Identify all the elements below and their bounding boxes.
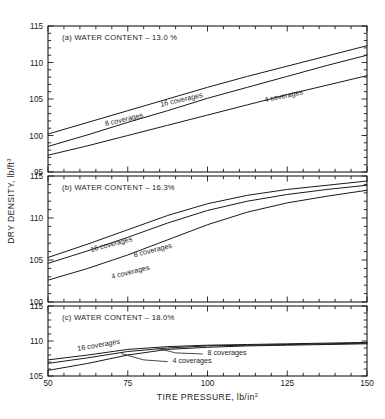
y-tick-label: 110 xyxy=(30,59,43,68)
x-tick-label: 75 xyxy=(123,379,133,388)
panel-title-b: (b) WATER CONTENT – 16.3% xyxy=(62,183,175,192)
series-label-a-4-coverages: 4 coverages xyxy=(263,87,304,104)
panel-title-c: (c) WATER CONTENT – 18.0% xyxy=(62,313,174,322)
panel-b-frame xyxy=(48,176,367,302)
series-label-c-4-coverages: 4 coverages xyxy=(172,356,212,365)
y-tick-label: 100 xyxy=(29,132,43,141)
panel-a: 95100105110115(a) WATER CONTENT – 13.0 %… xyxy=(29,22,367,177)
y-tick-label: 110 xyxy=(30,214,43,223)
panel-c: 1051101155075100125150(c) WATER CONTENT … xyxy=(29,302,374,388)
y-tick-label: 105 xyxy=(29,95,43,104)
series-label-c-8-coverages: 8 coverages xyxy=(208,348,248,357)
series-label-a-8-coverages: 8 coverages xyxy=(104,110,145,128)
y-tick-label: 105 xyxy=(29,256,43,265)
panel-title-a: (a) WATER CONTENT – 13.0 % xyxy=(62,33,177,42)
y-tick-label: 115 xyxy=(30,302,43,311)
curve-a-16-coverages xyxy=(48,46,367,134)
panel-b: 100105110115(b) WATER CONTENT – 16.3%16 … xyxy=(29,172,367,307)
chart-svg: 95100105110115(a) WATER CONTENT – 13.0 %… xyxy=(0,0,385,419)
y-tick-label: 110 xyxy=(30,337,43,346)
curve-a-8-coverages xyxy=(48,55,367,146)
x-tick-label: 125 xyxy=(280,379,294,388)
x-tick-label: 150 xyxy=(360,379,374,388)
series-label-b-4-coverages: 4 coverages xyxy=(110,263,151,281)
x-tick-label: 50 xyxy=(43,379,53,388)
series-label-b-16-coverages: 16 coverages xyxy=(89,234,133,254)
panel-a-frame xyxy=(48,26,367,172)
series-label-c-16-coverages: 16 coverages xyxy=(77,337,121,353)
y-tick-label: 105 xyxy=(29,372,43,381)
y-tick-label: 115 xyxy=(30,22,43,31)
x-tick-label: 100 xyxy=(201,379,215,388)
y-axis-title: DRY DENSITY, lb/ft3 xyxy=(6,158,16,244)
y-tick-label: 115 xyxy=(30,172,43,181)
series-label-b-8-coverages: 8 coverages xyxy=(133,241,174,259)
x-axis-title: TIRE PRESSURE, lb/in2 xyxy=(157,392,258,402)
figure-container: 95100105110115(a) WATER CONTENT – 13.0 %… xyxy=(0,0,385,419)
